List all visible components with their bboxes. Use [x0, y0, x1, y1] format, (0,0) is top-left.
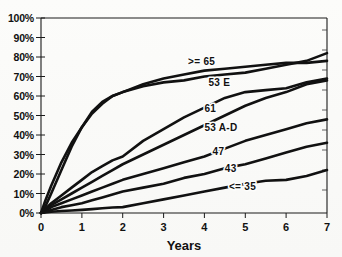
- series-label-6: 43: [225, 163, 237, 174]
- y-tick-label: 80%: [14, 51, 35, 63]
- series-line-5: [41, 119, 327, 213]
- series-label-layer: >= 65>= 6553 E53 E616153 A-D53 A-D474743…: [188, 56, 256, 192]
- x-tick-label: 2: [120, 221, 126, 233]
- chart-figure: 100% 90% 80% 70% 60% 50% 40% 30% 20% 10%…: [0, 0, 342, 257]
- series-label-7: <= 35: [229, 181, 256, 192]
- x-tick-label: 6: [283, 221, 289, 233]
- x-tick-label: 1: [79, 221, 85, 233]
- x-tick-label: 4: [201, 221, 208, 233]
- x-axis-title: Years: [167, 238, 202, 253]
- y-tick-label: 100%: [8, 12, 35, 24]
- series-line-4: [41, 80, 327, 213]
- y-tick-label: 60%: [14, 90, 35, 102]
- y-tick-label: 0%: [19, 207, 35, 219]
- y-tick-label: 20%: [14, 168, 35, 180]
- y-tick-label: 70%: [14, 71, 35, 83]
- series-layer: [41, 53, 327, 213]
- line-chart: 100% 90% 80% 70% 60% 50% 40% 30% 20% 10%…: [0, 0, 342, 257]
- x-axis-tick-labels: 0 1 2 3 4 5 6 7: [38, 221, 330, 233]
- y-axis-tick-labels: 100% 90% 80% 70% 60% 50% 40% 30% 20% 10%…: [8, 12, 35, 219]
- series-label-4: 53 A-D: [204, 122, 237, 133]
- y-tick-label: 50%: [14, 110, 35, 122]
- series-label-3: 61: [204, 103, 216, 114]
- x-tick-label: 7: [324, 221, 330, 233]
- series-line-2: [41, 53, 327, 213]
- y-tick-label: 90%: [14, 32, 35, 44]
- series-label-2: 53 E: [209, 77, 231, 88]
- x-tick-label: 0: [38, 221, 44, 233]
- series-line-1: [41, 61, 327, 213]
- x-axis-ticks: [41, 213, 327, 218]
- series-line-7: [41, 170, 327, 213]
- x-tick-label: 3: [161, 221, 167, 233]
- series-label-5: 47: [213, 146, 225, 157]
- series-label-1: >= 65: [188, 56, 215, 67]
- plot-frame: [41, 18, 327, 213]
- x-tick-label: 5: [242, 221, 248, 233]
- y-tick-label: 40%: [14, 129, 35, 141]
- series-line-3: [41, 78, 327, 213]
- y-tick-label: 10%: [14, 188, 35, 200]
- y-tick-label: 30%: [14, 149, 35, 161]
